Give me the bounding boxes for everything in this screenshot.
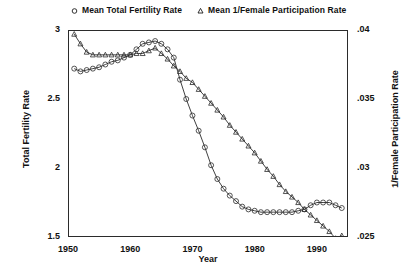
y-axis-right-tick-label: .025 (357, 231, 401, 241)
series-line (74, 34, 342, 237)
x-axis-tick-label: 1990 (295, 244, 339, 254)
legend-label: Mean 1/Female Participation Rate (208, 5, 346, 15)
series-line (74, 41, 342, 212)
y-axis-right-title: 1/Female Participation Rate (390, 54, 400, 204)
triangle-marker-icon (72, 32, 77, 37)
legend-entry-total-fertility-rate: Mean Total Fertility Rate (70, 5, 182, 15)
data-series-group (72, 32, 345, 237)
x-axis-tick-label: 1950 (46, 244, 90, 254)
x-axis-title: Year (68, 254, 348, 264)
triangle-marker-icon (339, 233, 344, 237)
axis-tick-marks (68, 30, 348, 237)
y-axis-left-tick-label: 3 (20, 24, 60, 34)
y-axis-right-tick-label: .04 (357, 24, 401, 34)
chart-legend: Mean Total Fertility Rate Mean 1/Female … (70, 2, 370, 18)
y-axis-left-title: Total Fertility Rate (21, 59, 31, 199)
y-axis-left-tick-label: 1.5 (20, 231, 60, 241)
x-axis-tick-label: 1960 (108, 244, 152, 254)
plot-area (68, 30, 348, 237)
x-axis-tick-label: 1980 (233, 244, 277, 254)
x-axis-tick-label: 1970 (170, 244, 214, 254)
circle-marker-icon (70, 6, 79, 15)
legend-entry-female-participation-rate: Mean 1/Female Participation Rate (196, 5, 346, 15)
legend-label: Mean Total Fertility Rate (82, 5, 182, 15)
chart-figure: Mean Total Fertility Rate Mean 1/Female … (0, 0, 413, 272)
triangle-marker-icon (196, 6, 205, 15)
